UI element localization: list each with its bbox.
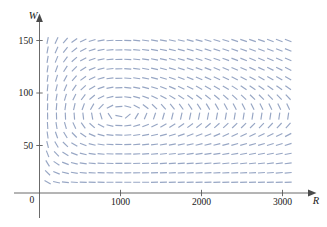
slope-mark bbox=[169, 95, 175, 99]
slope-mark bbox=[225, 113, 226, 120]
slope-mark bbox=[151, 124, 157, 127]
slope-mark bbox=[197, 104, 201, 110]
slope-mark bbox=[222, 153, 229, 154]
slope-mark bbox=[133, 40, 140, 41]
slope-mark bbox=[89, 68, 96, 71]
slope-mark bbox=[98, 68, 105, 70]
slope-mark bbox=[231, 163, 238, 164]
slope-mark bbox=[267, 39, 274, 41]
slope-mark bbox=[107, 125, 114, 127]
slope-mark bbox=[196, 95, 202, 99]
slope-mark bbox=[89, 134, 95, 137]
slope-mark bbox=[258, 77, 264, 80]
slope-mark bbox=[260, 104, 263, 110]
slope-mark bbox=[196, 86, 202, 89]
slope-mark bbox=[64, 132, 68, 138]
slope-mark bbox=[249, 133, 255, 136]
slope-mark bbox=[249, 39, 256, 41]
slope-mark bbox=[178, 49, 185, 51]
slope-mark bbox=[276, 133, 282, 136]
slope-mark bbox=[267, 133, 273, 136]
slope-mark bbox=[231, 49, 238, 51]
slope-mark bbox=[81, 94, 85, 100]
y-axis-tick-labels: 50100150 bbox=[19, 35, 34, 151]
slope-mark bbox=[80, 39, 86, 42]
slope-mark bbox=[133, 78, 140, 79]
slope-mark bbox=[259, 86, 265, 90]
slope-mark bbox=[232, 77, 238, 80]
slope-mark bbox=[278, 103, 281, 109]
slope-mark bbox=[258, 153, 265, 154]
slope-mark bbox=[47, 94, 48, 101]
slope-mark bbox=[187, 123, 193, 127]
slope-mark bbox=[196, 153, 203, 154]
slope-mark bbox=[233, 104, 236, 110]
slope-field-marks bbox=[45, 37, 292, 184]
slope-mark bbox=[169, 124, 175, 128]
slope-mark bbox=[187, 95, 193, 99]
slope-mark bbox=[258, 133, 264, 136]
slope-mark bbox=[144, 113, 147, 119]
slope-mark bbox=[240, 144, 247, 146]
slope-mark bbox=[234, 113, 235, 120]
slope-mark bbox=[72, 85, 76, 91]
slope-mark bbox=[171, 113, 173, 120]
slope-mark bbox=[160, 124, 166, 127]
slope-mark bbox=[288, 113, 289, 120]
slope-mark bbox=[160, 40, 167, 41]
slope-mark bbox=[285, 143, 292, 145]
slope-mark bbox=[98, 154, 105, 155]
slope-mark bbox=[205, 95, 210, 99]
slope-mark bbox=[142, 134, 149, 135]
slope-mark bbox=[74, 113, 75, 120]
slope-mark bbox=[98, 49, 105, 50]
slope-mark bbox=[80, 133, 86, 137]
slope-mark bbox=[47, 47, 48, 54]
slope-mark bbox=[214, 68, 221, 71]
slope-mark bbox=[232, 134, 238, 137]
slope-mark bbox=[98, 144, 105, 145]
slope-mark bbox=[240, 134, 246, 137]
slope-mark bbox=[214, 77, 220, 80]
slope-mark bbox=[222, 39, 229, 41]
slope-mark bbox=[47, 141, 49, 148]
slope-mark bbox=[232, 123, 237, 128]
slope-mark bbox=[214, 95, 219, 100]
slope-mark bbox=[71, 163, 78, 165]
slope-mark bbox=[151, 96, 157, 99]
slope-mark bbox=[62, 152, 68, 156]
slope-mark bbox=[205, 49, 212, 51]
slope-mark bbox=[47, 84, 48, 91]
slope-mark bbox=[196, 49, 203, 51]
origin-tick-label: 0 bbox=[30, 194, 35, 205]
slope-mark bbox=[89, 86, 95, 90]
slope-mark bbox=[169, 144, 176, 145]
slope-mark bbox=[142, 40, 149, 41]
slope-mark bbox=[72, 76, 77, 81]
slope-mark bbox=[267, 77, 273, 80]
slope-mark bbox=[196, 77, 202, 80]
slope-mark bbox=[258, 143, 265, 145]
direction-field-figure: 100020003000 50100150 0 R W bbox=[0, 0, 327, 227]
slope-mark bbox=[170, 104, 174, 109]
slope-mark bbox=[133, 59, 140, 60]
slope-mark bbox=[124, 125, 131, 126]
slope-mark bbox=[285, 86, 291, 90]
slope-mark bbox=[55, 132, 57, 139]
slope-mark bbox=[98, 87, 105, 89]
slope-mark bbox=[124, 97, 131, 98]
slope-mark bbox=[169, 59, 176, 61]
slope-mark bbox=[240, 58, 247, 61]
slope-mark bbox=[56, 84, 58, 91]
slope-mark bbox=[115, 115, 122, 116]
x-axis-label: R bbox=[312, 195, 320, 206]
slope-mark bbox=[276, 49, 283, 52]
slope-mark bbox=[107, 78, 114, 79]
slope-mark bbox=[89, 77, 95, 80]
slope-mark bbox=[133, 144, 140, 145]
slope-mark bbox=[276, 58, 282, 61]
slope-mark bbox=[213, 163, 220, 164]
slope-mark bbox=[124, 106, 131, 108]
slope-mark bbox=[242, 104, 245, 110]
slope-mark bbox=[142, 124, 149, 127]
